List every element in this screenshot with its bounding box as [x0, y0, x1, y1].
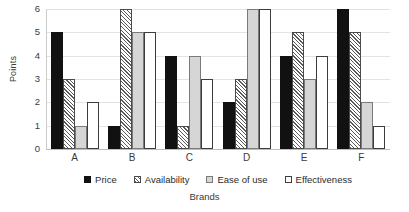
bar-a-ease-of-use [75, 126, 87, 149]
y-axis-tick-label: 6 [35, 4, 40, 14]
bar-a-effectiveness [87, 102, 99, 149]
bar-e-ease-of-use [304, 79, 316, 149]
bar-groups [46, 9, 390, 149]
bar-group-b [103, 9, 160, 149]
bar-chart-figure: Points 0123456 ABCDEF PriceAvailabilityE… [0, 0, 409, 212]
bar-e-price [280, 56, 292, 149]
bar-f-price [337, 9, 349, 149]
x-axis-tick-label-b: B [103, 152, 160, 163]
legend-item-effectiveness: Effectiveness [285, 174, 352, 185]
x-axis-tick-label-f: F [333, 152, 390, 163]
y-axis-tick-label: 0 [35, 144, 40, 154]
bar-a-availability [63, 79, 75, 149]
x-axis-tick-label-d: D [218, 152, 275, 163]
legend-label: Ease of use [217, 174, 267, 185]
legend-item-ease-of-use: Ease of use [206, 174, 267, 185]
y-axis-tick-label: 2 [35, 98, 40, 108]
bar-group-f [333, 9, 390, 149]
legend-item-availability: Availability [134, 174, 190, 185]
x-axis-tick-label-c: C [161, 152, 218, 163]
bar-c-price [165, 56, 177, 149]
bar-group-d [218, 9, 275, 149]
bar-c-ease-of-use [189, 56, 201, 149]
y-axis-tick-label: 5 [35, 28, 40, 38]
bar-c-availability [177, 126, 189, 149]
legend-label: Price [95, 174, 117, 185]
bar-c-effectiveness [201, 79, 213, 149]
bar-e-effectiveness [316, 56, 328, 149]
y-axis-tick-label: 1 [35, 121, 40, 131]
bar-group-e [275, 9, 332, 149]
x-axis-tick-label-a: A [46, 152, 103, 163]
legend-label: Availability [145, 174, 190, 185]
bar-group-a [46, 9, 103, 149]
y-axis-title: Points [8, 34, 18, 104]
bar-e-availability [292, 32, 304, 149]
bar-d-ease-of-use [247, 9, 259, 149]
bar-f-ease-of-use [361, 102, 373, 149]
bar-d-price [223, 102, 235, 149]
bar-f-effectiveness [373, 126, 385, 149]
x-axis-tick-label-e: E [275, 152, 332, 163]
x-axis-tick-labels: ABCDEF [46, 152, 390, 163]
legend-swatch-icon [84, 176, 91, 183]
legend-swatch-icon [206, 176, 213, 183]
gridline [46, 149, 390, 150]
bar-b-effectiveness [144, 32, 156, 149]
plot-area: 0123456 [46, 9, 390, 149]
bar-f-availability [349, 32, 361, 149]
legend: PriceAvailabilityEase of useEffectivenes… [46, 174, 390, 185]
legend-item-price: Price [84, 174, 117, 185]
legend-swatch-icon [285, 176, 292, 183]
bar-a-price [51, 32, 63, 149]
legend-swatch-icon [134, 176, 141, 183]
bar-b-ease-of-use [132, 32, 144, 149]
x-axis-title: Brands [0, 191, 409, 202]
bar-b-price [108, 126, 120, 149]
y-axis-tick-label: 4 [35, 51, 40, 61]
legend-label: Effectiveness [296, 174, 352, 185]
bar-d-availability [235, 79, 247, 149]
bar-group-c [161, 9, 218, 149]
bar-d-effectiveness [259, 9, 271, 149]
y-axis-tick-label: 3 [35, 74, 40, 84]
bar-b-availability [120, 9, 132, 149]
